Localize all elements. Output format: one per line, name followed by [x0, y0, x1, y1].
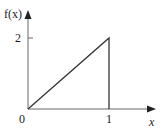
function-line	[28, 38, 109, 109]
origin-label: 0	[19, 112, 25, 126]
x-axis-arrow-icon	[147, 106, 156, 113]
x-axis-label: x	[148, 115, 155, 129]
x-tick-label-1: 1	[106, 112, 112, 126]
y-axis-label: f(x)	[4, 7, 22, 21]
y-tick-label-2: 2	[15, 31, 21, 45]
chart-canvas: f(x) 2 0 1 x	[0, 0, 162, 131]
y-axis-arrow-icon	[25, 10, 32, 19]
